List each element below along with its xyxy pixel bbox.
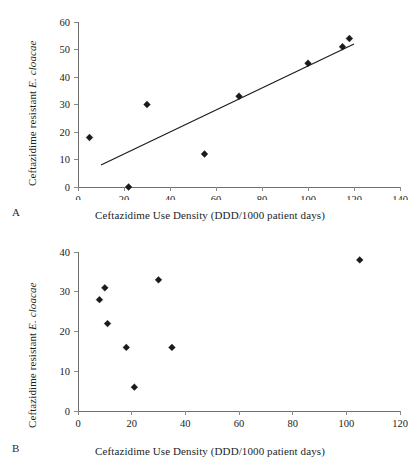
x-tick-label: 120 [392, 418, 408, 429]
y-tick-label: 20 [60, 326, 71, 337]
y-tick-label: 40 [60, 72, 71, 83]
data-point-marker [101, 284, 108, 291]
data-point-marker [104, 320, 111, 327]
x-tick-label: 0 [75, 194, 80, 200]
data-point-marker [169, 344, 176, 351]
y-axis-title-b-species: E. cloacae [26, 282, 38, 329]
panel-a: 0102030405060020406080100120140 Ceftazid… [0, 0, 420, 236]
x-tick-label: 120 [346, 194, 362, 200]
data-point-marker [96, 296, 103, 303]
y-axis-title-b: Ceftazidime resistant E. cloacae [26, 282, 38, 428]
y-axis-title-b-plain: Ceftazidime resistant [26, 330, 38, 428]
data-point-marker [356, 257, 363, 264]
data-point-marker [123, 344, 130, 351]
y-tick-label: 20 [60, 127, 71, 138]
panel-b: 010203040020406080100120 Ceftazidime Use… [0, 236, 420, 472]
trend-line [101, 44, 354, 165]
panel-label-a: A [12, 206, 20, 218]
data-point-marker [346, 35, 353, 42]
data-point-marker [155, 276, 162, 283]
y-axis-title-a: Ceftazidime resistant E. cloacae [26, 40, 38, 186]
y-axis-title-a-plain: Ceftazidime resistant [26, 88, 38, 186]
y-tick-label: 40 [60, 247, 71, 258]
data-point-marker [305, 60, 312, 67]
y-tick-label: 50 [60, 44, 71, 55]
x-tick-label: 80 [257, 194, 268, 200]
panel-label-b: B [12, 442, 20, 454]
data-point-marker [339, 43, 346, 50]
data-point-marker [86, 134, 93, 141]
y-tick-label: 10 [60, 154, 71, 165]
data-point-marker [201, 151, 208, 158]
x-tick-label: 60 [211, 194, 222, 200]
y-tick-label: 30 [60, 99, 71, 110]
x-tick-label: 0 [75, 418, 80, 429]
y-tick-label: 0 [65, 182, 70, 193]
data-point-marker [125, 184, 132, 191]
y-tick-label: 30 [60, 286, 71, 297]
data-point-marker [236, 93, 243, 100]
x-tick-label: 60 [234, 418, 245, 429]
scatter-plot-b: 010203040020406080100120 [0, 236, 420, 436]
x-tick-label: 40 [180, 418, 191, 429]
x-axis-title-a: Ceftazidime Use Density (DDD/1000 patien… [0, 209, 420, 221]
y-tick-label: 10 [60, 366, 71, 377]
data-point-marker [131, 384, 138, 391]
scatter-plot-a: 0102030405060020406080100120140 [0, 0, 420, 200]
x-tick-label: 20 [119, 194, 130, 200]
x-axis-title-b: Ceftazidime Use Density (DDD/1000 patien… [0, 445, 420, 457]
x-tick-label: 100 [300, 194, 316, 200]
x-tick-label: 100 [338, 418, 354, 429]
x-tick-label: 140 [392, 194, 408, 200]
x-tick-label: 20 [126, 418, 137, 429]
x-tick-label: 80 [287, 418, 298, 429]
data-point-marker [144, 101, 151, 108]
y-tick-label: 60 [60, 17, 71, 28]
figure-container: 0102030405060020406080100120140 Ceftazid… [0, 0, 420, 472]
x-tick-label: 40 [165, 194, 176, 200]
y-tick-label: 0 [65, 406, 70, 417]
y-axis-title-a-species: E. cloacae [26, 40, 38, 87]
